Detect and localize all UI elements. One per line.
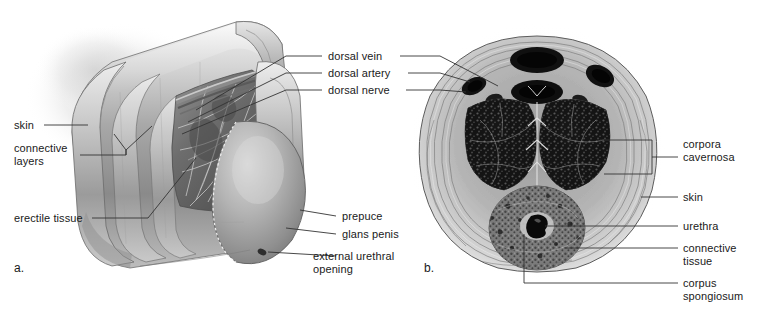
anatomical-figure: skin connective layers erectile tissue d…: [0, 0, 760, 309]
label-connective-tissue: connective tissue: [683, 242, 737, 268]
label-corpora-cavernosa: corpora cavernosa: [683, 138, 735, 164]
label-external-urethral-opening: external urethral opening: [313, 250, 394, 276]
label-dorsal-vein: dorsal vein: [328, 50, 382, 63]
label-corpus-spongiosum: corpus spongiosum: [683, 277, 743, 303]
label-glans-penis: glans penis: [342, 228, 399, 241]
panel-letter-b: b.: [424, 261, 434, 275]
label-erectile-tissue: erectile tissue: [14, 212, 83, 225]
label-dorsal-nerve: dorsal nerve: [328, 84, 390, 97]
label-urethra: urethra: [683, 220, 719, 233]
panel-b-illustration: [407, 22, 667, 282]
label-dorsal-artery: dorsal artery: [328, 67, 390, 80]
label-skin-b: skin: [683, 191, 703, 204]
label-skin-a: skin: [14, 119, 34, 132]
label-prepuce: prepuce: [342, 210, 382, 223]
panel-letter-a: a.: [14, 261, 24, 275]
leader-prepuce: [300, 210, 336, 216]
label-connective-layers: connective layers: [14, 142, 68, 168]
